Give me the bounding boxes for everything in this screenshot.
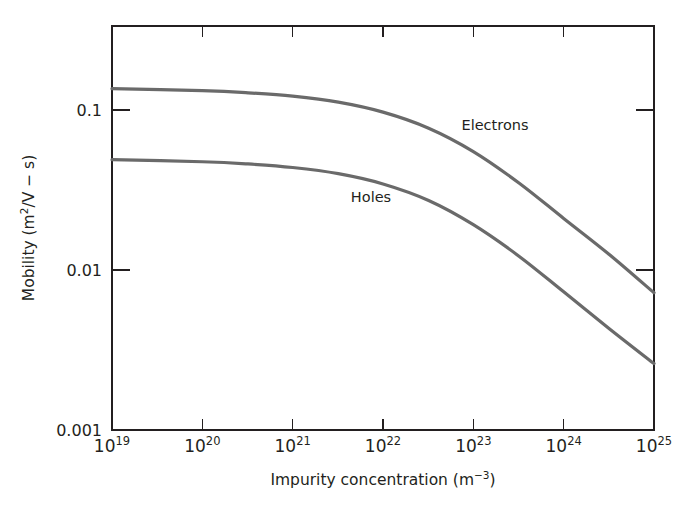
x-tick-base: 10 (546, 436, 568, 456)
y-tick-label: 0.01 (66, 261, 102, 280)
x-tick-base: 10 (455, 436, 477, 456)
y-axis-title-text-a: Mobility (m (20, 214, 38, 301)
mobility-vs-impurity-chart: 1019102010211022102310241025 0.10.010.00… (0, 0, 699, 512)
y-tick-label: 0.001 (56, 421, 102, 440)
x-axis-title: Impurity concentration (m−3) (270, 469, 495, 489)
x-axis-title-close: ) (490, 471, 496, 489)
x-tick-base: 10 (636, 436, 658, 456)
y-tick-label: 0.1 (77, 101, 102, 120)
x-tick-exponent: 20 (206, 434, 221, 448)
x-tick-exponent: 23 (477, 434, 492, 448)
y-axis-title-text-b: /V − s) (20, 155, 38, 208)
x-tick-base: 10 (365, 436, 387, 456)
series-label-electrons: Electrons (461, 117, 528, 133)
x-tick-exponent: 22 (387, 434, 402, 448)
series-label-holes: Holes (351, 189, 391, 205)
x-tick-exponent: 25 (658, 434, 673, 448)
x-tick-exponent: 19 (116, 434, 131, 448)
x-axis-title-exponent: −3 (474, 469, 489, 481)
y-axis-title-exponent: 2 (18, 208, 30, 215)
chart-svg: 1019102010211022102310241025 0.10.010.00… (0, 0, 699, 512)
x-tick-base: 10 (275, 436, 297, 456)
x-tick-exponent: 24 (567, 434, 582, 448)
y-axis-title: Mobility (m2/V − s) (18, 155, 38, 301)
x-tick-exponent: 21 (296, 434, 311, 448)
x-axis-title-text: Impurity concentration (m (270, 471, 474, 489)
x-tick-base: 10 (184, 436, 206, 456)
